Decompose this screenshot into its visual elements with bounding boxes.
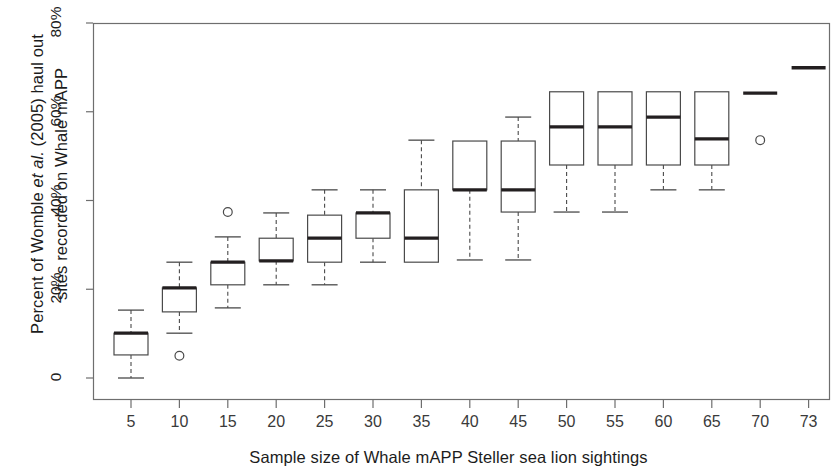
box-40 [453,141,487,260]
outlier-point [223,208,232,217]
box-15 [211,208,245,308]
outlier-point [175,351,184,360]
box-65 [695,92,729,190]
box-rect [114,333,148,355]
box-20 [259,213,293,285]
box-35 [404,140,438,262]
plot-area [0,0,835,473]
box-30 [356,190,390,262]
x-tick-label: 5 [111,413,151,431]
x-tick-label: 73 [789,413,829,431]
box-rect [501,141,535,212]
x-tick-label: 55 [595,413,635,431]
box-rect [453,141,487,190]
box-55 [598,92,632,212]
box-rect [356,213,390,238]
y-tick-label: 20% [47,258,65,318]
box-rect [211,262,245,285]
box-rect [404,190,438,262]
x-tick-label: 40 [450,413,490,431]
x-tick-label: 35 [401,413,441,431]
x-tick-label: 15 [208,413,248,431]
y-tick-label: 60% [47,81,65,141]
outlier-point [756,136,765,145]
x-tick-label: 50 [547,413,587,431]
y-tick-label: 0 [47,347,65,407]
x-tick-label: 30 [353,413,393,431]
box-rect [695,92,729,165]
x-tick-label: 65 [692,413,732,431]
plot-frame [94,24,830,400]
box-70 [743,93,777,144]
x-tick-label: 45 [498,413,538,431]
y-tick-label: 40% [47,170,65,230]
boxplot-figure: Percent of Womble et al. (2005) haul out… [0,0,835,473]
box-rect [646,92,680,165]
x-tick-label: 70 [740,413,780,431]
x-tick-label: 25 [305,413,345,431]
x-tick-label: 10 [159,413,199,431]
y-tick-label: 80% [47,0,65,52]
box-rect [162,288,196,312]
box-50 [550,92,584,212]
box-60 [646,92,680,190]
x-tick-label: 60 [643,413,683,431]
box-5 [114,310,148,378]
box-45 [501,117,535,260]
box-10 [162,262,196,360]
box-rect [259,238,293,261]
x-tick-label: 20 [256,413,296,431]
box-25 [308,190,342,285]
